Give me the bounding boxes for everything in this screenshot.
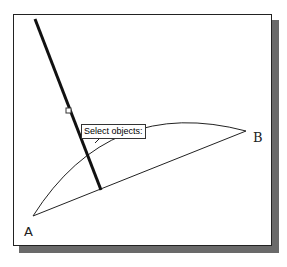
selected-thick-line[interactable] xyxy=(35,19,101,190)
grip-square-icon[interactable] xyxy=(66,108,71,113)
point-label-b: B xyxy=(253,130,263,145)
select-objects-tooltip: Select objects: xyxy=(81,124,146,139)
point-label-a: A xyxy=(24,224,33,239)
chord-line-ab[interactable] xyxy=(33,131,246,216)
